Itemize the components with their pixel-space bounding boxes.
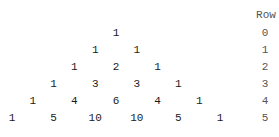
triangle-entry: 1 (175, 78, 182, 90)
triangle-entry: 3 (133, 78, 140, 90)
row-number: 0 (262, 27, 269, 39)
triangle-entry: 10 (130, 112, 143, 124)
row-number: 3 (262, 78, 269, 90)
triangle-entry: 1 (92, 44, 99, 56)
triangle-entry: 1 (196, 95, 203, 107)
triangle-entry: 5 (50, 112, 57, 124)
triangle-entry: 3 (92, 78, 99, 90)
triangle-entry: 1 (217, 112, 224, 124)
triangle-entry: 1 (9, 112, 16, 124)
triangle-entry: 4 (71, 95, 78, 107)
triangle-entry: 1 (71, 61, 78, 73)
triangle-entry: 1 (29, 95, 36, 107)
triangle-entry: 1 (113, 27, 120, 39)
triangle-entry: 10 (89, 112, 102, 124)
row-number: 4 (262, 95, 269, 107)
row-number: 1 (262, 44, 269, 56)
triangle-entry: 4 (154, 95, 161, 107)
row-header: Row (256, 9, 276, 21)
triangle-entry: 6 (113, 95, 120, 107)
row-number: 5 (262, 112, 269, 124)
triangle-entry: 2 (113, 61, 120, 73)
triangle-entry: 1 (50, 78, 57, 90)
triangle-entry: 5 (175, 112, 182, 124)
triangle-entry: 1 (133, 44, 140, 56)
triangle-entry: 1 (154, 61, 161, 73)
row-number: 2 (262, 61, 269, 73)
